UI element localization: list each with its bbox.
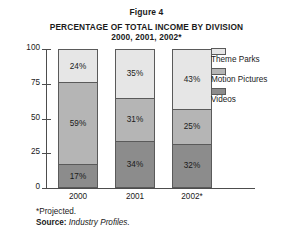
legend-item: Videos (211, 88, 291, 105)
y-axis-label: 25 (6, 147, 40, 156)
footnotes: *Projected. Source: Industry Profiles. (36, 207, 276, 228)
bar-segment: 43% (172, 49, 212, 109)
legend-item: Theme Parks (211, 48, 291, 65)
y-axis-label: 75 (6, 78, 40, 87)
y-axis-tick-inner (47, 49, 51, 50)
x-axis-label: 2002* (162, 192, 222, 201)
projected-note: *Projected. (36, 207, 276, 218)
legend-swatch (211, 68, 226, 75)
bar-segment: 32% (172, 144, 212, 188)
x-axis-line (46, 188, 255, 189)
stacked-bar: 43%25%32% (172, 49, 212, 188)
bar-segment: 17% (58, 164, 98, 188)
legend: Theme ParksMotion PicturesVideos (211, 48, 291, 108)
bar-segment: 25% (172, 109, 212, 144)
y-axis-tick-inner (47, 119, 51, 120)
y-axis-label: 50 (6, 113, 40, 122)
legend-label: Theme Parks (211, 55, 291, 65)
stacked-bar: 24%59%17% (58, 49, 98, 188)
bar-segment: 35% (115, 49, 155, 98)
bar-segment: 34% (115, 141, 155, 188)
figure-label: Figure 4 (0, 7, 293, 17)
chart-subtitle: 2000, 2001, 2002* (10, 32, 283, 42)
source-note: Source: Industry Profiles. (36, 218, 276, 229)
x-axis-label: 2001 (105, 192, 165, 201)
plot-area: 0255075100 24%59%17%35%31%34%43%25%32% 2… (46, 49, 201, 189)
bar-segment: 59% (58, 82, 98, 164)
y-axis-tick-inner (47, 153, 51, 154)
bar-segment: 31% (115, 98, 155, 141)
legend-item: Motion Pictures (211, 68, 291, 85)
source-label: Source: (36, 218, 66, 227)
stacked-bar: 35%31%34% (115, 49, 155, 188)
legend-label: Videos (211, 95, 291, 105)
chart-title: PERCENTAGE OF TOTAL INCOME BY DIVISION (10, 22, 283, 33)
legend-swatch (211, 48, 226, 55)
bar-segment: 24% (58, 49, 98, 82)
x-axis-label: 2000 (48, 192, 108, 201)
y-axis-tick-inner (47, 84, 51, 85)
legend-swatch (211, 88, 226, 95)
figure-container: Figure 4 PERCENTAGE OF TOTAL INCOME BY D… (0, 0, 293, 242)
y-axis-tick-inner (47, 188, 51, 189)
y-axis-label: 0 (6, 182, 40, 191)
legend-label: Motion Pictures (211, 75, 291, 85)
source-value: Industry Profiles. (69, 218, 130, 227)
y-axis-label: 100 (6, 43, 40, 52)
